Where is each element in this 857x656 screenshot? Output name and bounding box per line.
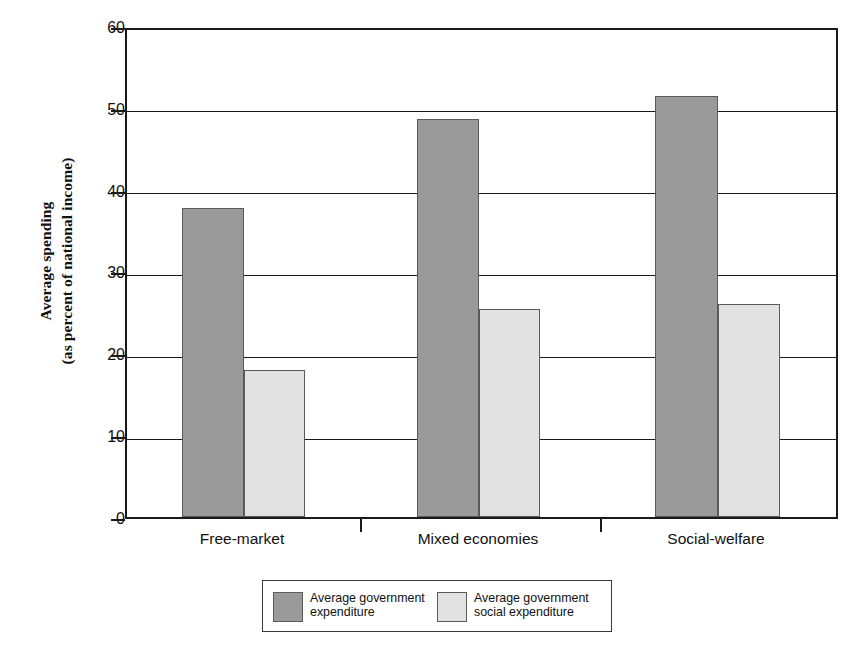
- legend-label-social-expenditure: Average government social expenditure: [474, 591, 589, 620]
- x-axis-label-free-market: Free-market: [200, 530, 284, 548]
- gridline-50: [127, 111, 836, 112]
- y-tick-mark-40: [111, 192, 125, 194]
- legend-entry-government-expenditure: Average government expenditure: [273, 591, 437, 622]
- x-axis-label-social-welfare: Social-welfare: [667, 530, 764, 548]
- y-tick-mark-30: [111, 273, 125, 275]
- legend: Average government expenditure Average g…: [262, 580, 612, 632]
- legend-swatch-light-icon: [437, 592, 467, 622]
- bar-social-welfare-government-expenditure: [655, 96, 718, 517]
- legend-swatch-dark-icon: [273, 592, 303, 622]
- y-tick-mark-10: [111, 437, 125, 439]
- x-tick-mark-2: [600, 519, 602, 532]
- legend-label-government-expenditure: Average government expenditure: [310, 591, 425, 620]
- bar-social-welfare-social-expenditure: [718, 304, 780, 517]
- bar-free-market-social-expenditure: [244, 370, 305, 517]
- y-tick-mark-0: [111, 519, 125, 521]
- bar-mixed-economies-government-expenditure: [417, 119, 479, 517]
- bar-mixed-economies-social-expenditure: [479, 309, 540, 517]
- x-tick-mark-1: [360, 519, 362, 532]
- legend-entry-social-expenditure: Average government social expenditure: [437, 591, 601, 622]
- y-tick-mark-20: [111, 355, 125, 357]
- gridline-40: [127, 193, 836, 194]
- x-axis-label-mixed-economies: Mixed economies: [418, 530, 539, 548]
- bar-chart: Average spending (as percent of national…: [0, 0, 857, 656]
- plot-area: [125, 28, 838, 519]
- bar-free-market-government-expenditure: [182, 208, 244, 517]
- y-tick-mark-50: [111, 110, 125, 112]
- y-axis: 60 50 40 30 20 10 0: [0, 0, 125, 656]
- y-tick-mark-60: [111, 28, 125, 30]
